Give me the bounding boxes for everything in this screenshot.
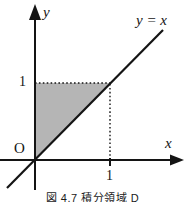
figure-canvas: y x y = x O 1 1 <box>0 0 185 202</box>
line-equation-label: y = x <box>134 12 167 28</box>
y-equals-x-line <box>7 30 163 188</box>
figure-caption: 図 4.7 積分領域 D <box>0 192 185 202</box>
x-axis-arrowhead <box>170 155 184 166</box>
y-tick-label-1: 1 <box>19 74 26 89</box>
figure-container: y x y = x O 1 1 図 4.7 積分領域 D <box>0 0 185 202</box>
y-axis-label: y <box>41 4 50 20</box>
x-tick-label-1: 1 <box>106 168 113 183</box>
origin-label: O <box>14 140 25 156</box>
x-axis-label: x <box>164 135 172 151</box>
y-axis-arrowhead <box>29 4 41 20</box>
